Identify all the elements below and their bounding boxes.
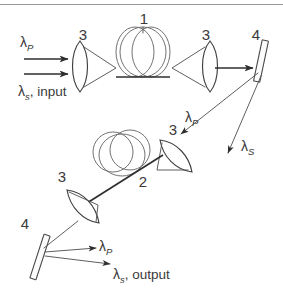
optical-diagram-figure: 3 1 3 4 3 2 3 4 λP λs, input λP λS λP λs… (0, 0, 283, 297)
mirror-lower-left (30, 234, 50, 280)
label-lens-top-left: 3 (79, 26, 88, 43)
lens-mid (160, 140, 192, 172)
label-lens-mid: 3 (169, 121, 178, 138)
beam-pump-output (45, 248, 96, 252)
lens-lower (67, 190, 99, 223)
beam-signal-output (45, 256, 110, 264)
lens-top-left (73, 41, 88, 92)
label-lambda-s-output: λs, output (113, 266, 170, 285)
label-lambda-s-right: λS (241, 138, 255, 157)
diagram-canvas: 3 1 3 4 3 2 3 4 λP λs, input λP λS λP λs… (0, 0, 283, 297)
label-component-1: 1 (140, 10, 149, 27)
beam-lens-to-mirror-lower (44, 221, 78, 248)
lens-top-right (203, 41, 218, 92)
label-lens-lower: 3 (58, 168, 67, 185)
label-lambda-s-input: λs, input (18, 83, 67, 102)
beam-cone-top-right (172, 47, 205, 87)
fiber-coil-1-loop-c (120, 27, 166, 77)
fiber-coil-1-loop-a (116, 27, 154, 77)
fiber-coil-1-loop-b (132, 27, 170, 77)
beam-cone-top-left (84, 47, 116, 87)
label-component-2: 2 (139, 173, 148, 190)
label-lambda-p-output: λP (99, 238, 113, 257)
label-lambda-p-mid: λP (185, 109, 199, 128)
label-mirror-right: 4 (252, 26, 261, 43)
label-lambda-p-input: λP (20, 34, 34, 53)
label-mirror-lower-left: 4 (21, 215, 30, 232)
label-lens-top-right: 3 (202, 26, 211, 43)
